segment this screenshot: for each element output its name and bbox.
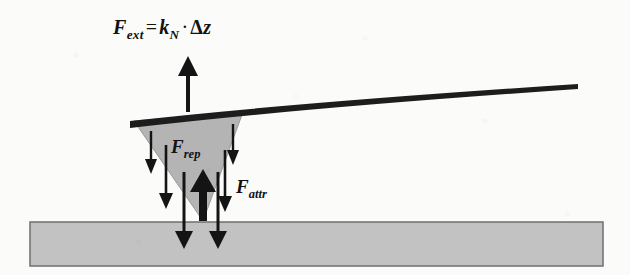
eq-spring-symbol: k [159,16,169,38]
eq-dot: · [179,16,190,38]
f-attr-symbol: F [236,176,249,197]
eq-spring-subscript: N [170,27,180,42]
eq-delta: Δ [190,16,203,38]
f-attr-subscript: attr [249,187,267,201]
f-rep-subscript: rep [184,147,201,161]
eq-force-symbol: F [113,16,127,38]
diagram-vector-layer [0,0,630,275]
label-f-attr: Fattr [236,176,267,202]
eq-displacement: z [203,16,211,38]
eq-force-subscript: ext [127,27,144,42]
equation-f-ext: Fext=kN·Δz [113,16,211,43]
figure-canvas: Fext=kN·Δz Frep Fattr [0,0,630,275]
sample-substrate [30,222,603,266]
eq-equals: = [144,16,160,38]
f-rep-symbol: F [171,136,184,157]
f-ext-arrow [178,56,198,112]
label-f-rep: Frep [171,136,200,162]
